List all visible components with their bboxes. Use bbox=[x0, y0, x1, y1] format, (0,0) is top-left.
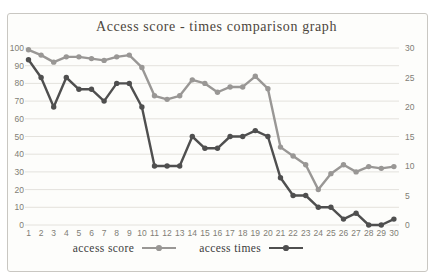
legend-item-access-score: access score bbox=[73, 242, 177, 254]
x-axis-tick-label: 9 bbox=[127, 228, 132, 238]
access-score-line bbox=[29, 50, 394, 190]
legend: access score access times bbox=[0, 242, 405, 254]
y-axis-left-tick-label: 30 bbox=[15, 167, 25, 177]
x-axis-tick-label: 6 bbox=[89, 228, 94, 238]
access-times-data-point-marker bbox=[253, 128, 258, 133]
access-times-data-point-marker bbox=[240, 134, 245, 139]
access-score-data-point-marker bbox=[240, 84, 245, 89]
y-axis-left-tick-label: 50 bbox=[15, 132, 25, 142]
x-axis-tick-label: 3 bbox=[51, 228, 56, 238]
access-times-data-point-marker bbox=[328, 205, 333, 210]
x-axis-tick-label: 13 bbox=[175, 228, 185, 238]
access-score-data-point-marker bbox=[89, 56, 94, 61]
y-axis-right-tick-label: 20 bbox=[405, 102, 415, 112]
access-score-data-point-marker bbox=[341, 162, 346, 167]
x-axis-tick-label: 22 bbox=[288, 228, 298, 238]
y-axis-right-tick-label: 0 bbox=[405, 220, 410, 230]
access-score-data-point-marker bbox=[328, 171, 333, 176]
x-axis-tick-label: 1 bbox=[26, 228, 31, 238]
access-score-data-point-marker bbox=[101, 58, 106, 63]
legend-label-access-score: access score bbox=[73, 242, 134, 254]
x-axis-tick-label: 21 bbox=[276, 228, 286, 238]
x-axis-tick-label: 20 bbox=[263, 228, 273, 238]
x-axis-tick-label: 10 bbox=[137, 228, 147, 238]
access-score-data-point-marker bbox=[265, 86, 270, 91]
x-axis-tick-label: 5 bbox=[77, 228, 82, 238]
access-score-data-point-marker bbox=[379, 166, 384, 171]
access-times-data-point-marker bbox=[127, 81, 132, 86]
access-score-data-point-marker bbox=[26, 47, 31, 52]
access-score-data-point-marker bbox=[114, 54, 119, 59]
access-score-data-point-marker bbox=[366, 164, 371, 169]
x-axis-tick-label: 30 bbox=[389, 228, 399, 238]
x-axis-tick-label: 28 bbox=[364, 228, 374, 238]
x-axis-tick-label: 12 bbox=[162, 228, 172, 238]
access-times-data-point-marker bbox=[379, 222, 384, 227]
y-axis-left-tick-label: 10 bbox=[15, 202, 25, 212]
y-axis-right-tick-label: 5 bbox=[405, 191, 410, 201]
y-axis-left-tick-label: 80 bbox=[15, 78, 25, 88]
access-times-data-point-marker bbox=[89, 87, 94, 92]
x-axis-tick-label: 18 bbox=[238, 228, 248, 238]
access-times-data-point-marker bbox=[202, 146, 207, 151]
access-times-data-point-marker bbox=[101, 98, 106, 103]
access-times-data-point-marker bbox=[177, 163, 182, 168]
y-axis-left-tick-label: 90 bbox=[15, 61, 25, 71]
access-times-data-point-marker bbox=[341, 216, 346, 221]
x-axis-tick-label: 14 bbox=[188, 228, 198, 238]
access-times-data-point-marker bbox=[152, 163, 157, 168]
access-times-data-point-marker bbox=[38, 75, 43, 80]
access-times-data-point-marker bbox=[303, 193, 308, 198]
access-score-data-point-marker bbox=[316, 187, 321, 192]
access-score-data-point-marker bbox=[177, 93, 182, 98]
access-score-data-point-marker bbox=[290, 153, 295, 158]
access-score-data-point-marker bbox=[64, 54, 69, 59]
access-times-data-point-marker bbox=[353, 211, 358, 216]
access-score-data-point-marker bbox=[38, 52, 43, 57]
access-times-data-point-marker bbox=[114, 81, 119, 86]
y-axis-left-tick-label: 100 bbox=[10, 43, 24, 53]
x-axis-tick-label: 26 bbox=[339, 228, 349, 238]
access-score-data-point-marker bbox=[215, 90, 220, 95]
access-times-data-point-marker bbox=[164, 163, 169, 168]
access-times-data-point-marker bbox=[290, 193, 295, 198]
access-times-data-point-marker bbox=[366, 222, 371, 227]
access-score-data-point-marker bbox=[391, 164, 396, 169]
access-times-data-point-marker bbox=[316, 205, 321, 210]
y-axis-right-tick-label: 30 bbox=[405, 43, 415, 53]
y-axis-left-tick-label: 70 bbox=[15, 96, 25, 106]
x-axis-tick-label: 25 bbox=[326, 228, 336, 238]
x-axis-tick-label: 24 bbox=[314, 228, 324, 238]
x-axis-tick-label: 29 bbox=[377, 228, 387, 238]
access-score-data-point-marker bbox=[303, 162, 308, 167]
x-axis-tick-label: 4 bbox=[64, 228, 69, 238]
y-axis-left-tick-label: 20 bbox=[15, 185, 25, 195]
access-score-data-point-marker bbox=[202, 81, 207, 86]
legend-marker-access-times-icon bbox=[268, 243, 304, 253]
legend-marker-access-score-icon bbox=[141, 243, 177, 253]
access-times-line bbox=[29, 60, 394, 225]
access-times-data-point-marker bbox=[278, 175, 283, 180]
access-score-data-point-marker bbox=[278, 144, 283, 149]
access-times-data-point-marker bbox=[64, 75, 69, 80]
x-axis-tick-label: 19 bbox=[251, 228, 261, 238]
access-times-data-point-marker bbox=[190, 134, 195, 139]
legend-item-access-times: access times bbox=[199, 242, 304, 254]
access-times-data-point-marker bbox=[26, 57, 31, 62]
y-axis-right-tick-label: 15 bbox=[405, 132, 415, 142]
x-axis-tick-label: 15 bbox=[200, 228, 210, 238]
x-axis-tick-label: 16 bbox=[213, 228, 223, 238]
x-axis-tick-label: 27 bbox=[351, 228, 361, 238]
access-score-data-point-marker bbox=[127, 52, 132, 57]
access-score-data-point-marker bbox=[353, 169, 358, 174]
access-score-data-point-marker bbox=[139, 65, 144, 70]
access-score-data-point-marker bbox=[227, 84, 232, 89]
access-score-data-point-marker bbox=[152, 93, 157, 98]
x-axis-tick-label: 23 bbox=[301, 228, 311, 238]
access-score-data-point-marker bbox=[190, 77, 195, 82]
access-score-data-point-marker bbox=[51, 59, 56, 64]
access-times-data-point-marker bbox=[215, 146, 220, 151]
x-axis-tick-label: 17 bbox=[225, 228, 235, 238]
access-times-data-point-marker bbox=[76, 87, 81, 92]
access-times-data-point-marker bbox=[51, 104, 56, 109]
